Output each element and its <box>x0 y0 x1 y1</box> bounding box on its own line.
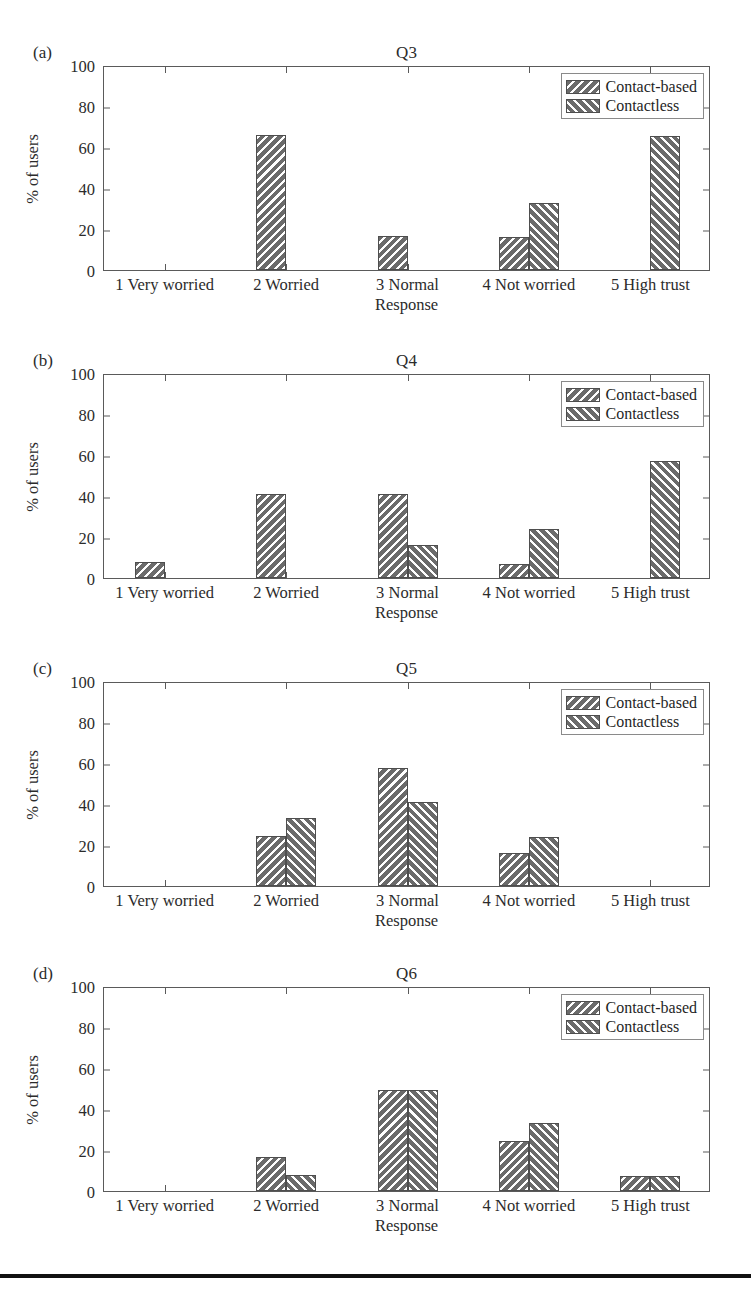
y-tick-mark <box>703 1070 709 1071</box>
bar-contact-based <box>499 237 529 270</box>
legend-item-label: Contactless <box>605 98 679 114</box>
bar-contactless <box>408 545 438 578</box>
y-tick-mark <box>104 806 110 807</box>
bar-contactless <box>286 818 316 886</box>
panel-title: Q3 <box>103 44 710 61</box>
y-tick-mark <box>104 190 110 191</box>
y-tick-label: 20 <box>79 1144 105 1161</box>
x-tick-mark <box>165 375 166 381</box>
panel-title: Q6 <box>103 965 710 982</box>
plot-area: 0204060801001 Very worried2 Worried3 Nor… <box>103 66 710 271</box>
x-tick-mark <box>286 375 287 381</box>
y-tick-label: 0 <box>87 572 104 589</box>
y-tick-mark <box>703 231 709 232</box>
x-tick-label: 4 Not worried <box>483 1191 576 1214</box>
bar-contactless <box>529 529 559 578</box>
x-tick-mark <box>529 67 530 73</box>
x-tick-mark <box>529 988 530 994</box>
y-tick-mark <box>104 149 110 150</box>
y-tick-mark <box>104 1070 110 1071</box>
plot-area: 0204060801001 Very worried2 Worried3 Nor… <box>103 374 710 579</box>
legend-swatch-contactless <box>566 1020 600 1034</box>
legend-item: Contactless <box>566 1017 697 1036</box>
y-tick-label: 100 <box>70 59 104 76</box>
legend-item-label: Contactless <box>605 1019 679 1035</box>
y-tick-mark <box>104 498 110 499</box>
bar-contact-based <box>378 768 408 886</box>
y-tick-mark <box>104 457 110 458</box>
bar-contact-based <box>256 1157 286 1191</box>
legend: Contact-basedContactless <box>561 381 704 427</box>
y-tick-label: 0 <box>87 1185 104 1202</box>
legend-item: Contactless <box>566 712 697 731</box>
y-tick-mark <box>703 190 709 191</box>
x-tick-mark <box>286 67 287 73</box>
x-tick-label: 1 Very worried <box>115 1191 214 1214</box>
y-tick-mark <box>104 1111 110 1112</box>
x-tick-mark <box>286 683 287 689</box>
legend-swatch-contact-based <box>566 80 600 94</box>
x-tick-label: 4 Not worried <box>483 270 576 293</box>
panel-tag: (d) <box>33 965 53 982</box>
bar-contactless <box>529 837 559 886</box>
panel-tag: (a) <box>33 44 52 61</box>
legend-swatch-contactless <box>566 99 600 113</box>
x-tick-label: 3 Normal <box>376 1191 439 1214</box>
x-tick-label: 2 Worried <box>253 1191 319 1214</box>
panel-q5: (c)Q5% of users0204060801001 Very worrie… <box>0 660 751 935</box>
legend-swatch-contact-based <box>566 1001 600 1015</box>
y-tick-label: 40 <box>79 798 105 815</box>
legend-item: Contact-based <box>566 998 697 1017</box>
y-tick-label: 100 <box>70 367 104 384</box>
legend-item: Contact-based <box>566 693 697 712</box>
y-tick-mark <box>703 457 709 458</box>
y-tick-label: 100 <box>70 675 104 692</box>
bar-contact-based <box>499 1141 529 1191</box>
y-tick-mark <box>104 1029 110 1030</box>
y-tick-mark <box>104 539 110 540</box>
x-tick-label: 3 Normal <box>376 886 439 909</box>
y-axis-label: % of users <box>25 89 42 249</box>
legend-swatch-contactless <box>566 407 600 421</box>
y-tick-label: 20 <box>79 531 105 548</box>
y-tick-mark <box>703 539 709 540</box>
x-tick-label: 1 Very worried <box>115 270 214 293</box>
x-tick-mark <box>165 988 166 994</box>
y-tick-label: 0 <box>87 264 104 281</box>
x-axis-label: Response <box>103 297 710 314</box>
y-tick-mark <box>703 1152 709 1153</box>
panel-tag: (c) <box>33 660 52 677</box>
x-tick-label: 2 Worried <box>253 270 319 293</box>
bar-contactless <box>650 136 680 270</box>
panel-q6: (d)Q6% of users0204060801001 Very worrie… <box>0 965 751 1240</box>
x-tick-mark <box>408 683 409 689</box>
legend-item: Contact-based <box>566 385 697 404</box>
y-tick-label: 40 <box>79 490 105 507</box>
y-tick-mark <box>104 416 110 417</box>
bar-contact-based <box>256 135 286 270</box>
legend: Contact-basedContactless <box>561 689 704 735</box>
x-axis-label: Response <box>103 1218 710 1235</box>
x-tick-mark <box>165 683 166 689</box>
bar-contact-based <box>378 236 408 270</box>
y-tick-mark <box>104 765 110 766</box>
y-tick-label: 60 <box>79 449 105 466</box>
y-tick-label: 60 <box>79 1062 105 1079</box>
x-tick-label: 5 High trust <box>611 578 690 601</box>
bar-contactless <box>650 461 680 578</box>
x-tick-mark <box>408 988 409 994</box>
bar-contact-based <box>378 1090 408 1191</box>
legend-item-label: Contactless <box>605 714 679 730</box>
legend-item-label: Contactless <box>605 406 679 422</box>
x-tick-label: 5 High trust <box>611 886 690 909</box>
y-tick-mark <box>703 149 709 150</box>
bar-contact-based <box>256 494 286 578</box>
bar-contact-based <box>378 494 408 578</box>
plot-area: 0204060801001 Very worried2 Worried3 Nor… <box>103 987 710 1192</box>
y-axis-label: % of users <box>25 705 42 865</box>
bar-contact-based <box>135 562 165 578</box>
x-tick-label: 2 Worried <box>253 578 319 601</box>
bar-contact-based <box>499 853 529 886</box>
x-tick-mark <box>529 683 530 689</box>
figure-four-panel-bar-charts: (a)Q3% of users0204060801001 Very worrie… <box>0 0 751 1304</box>
